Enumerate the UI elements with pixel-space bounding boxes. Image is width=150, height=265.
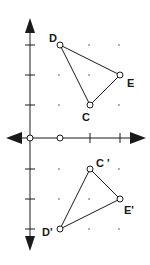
x-axis-left-arrow-icon: [6, 132, 22, 144]
x-axis-right-arrow-icon: [130, 132, 146, 144]
origin-point: [27, 135, 33, 141]
label-c-prime: C ': [96, 157, 110, 169]
label-d: D: [49, 32, 57, 44]
y-axis-up-arrow-icon: [25, 18, 35, 33]
label-c: C: [82, 111, 90, 123]
label-e: E: [127, 77, 134, 89]
label-d-prime: D': [42, 226, 53, 238]
y-axis-down-arrow-icon: [25, 236, 35, 251]
grid-dots: [58, 44, 120, 230]
label-e-prime: E': [124, 204, 134, 216]
coordinate-plane-diagram: D E C C ' E' D': [0, 0, 150, 265]
x-axis-point: [57, 135, 63, 141]
